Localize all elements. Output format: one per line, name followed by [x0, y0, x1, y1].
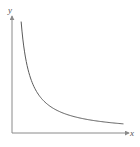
hyperbola-plot: y x	[0, 0, 140, 147]
x-axis-label: x	[129, 128, 134, 138]
hyperbola-curve	[21, 22, 123, 124]
y-axis-label: y	[7, 5, 12, 15]
